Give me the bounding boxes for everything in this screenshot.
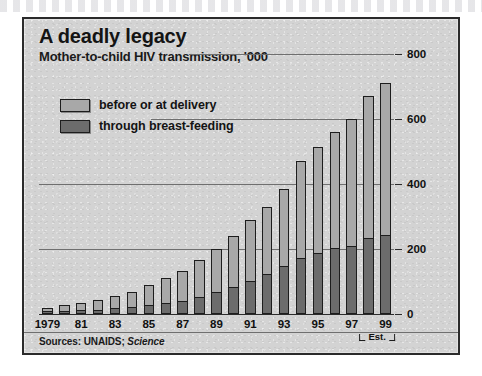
bar-segment-breast-feeding-1994 — [297, 258, 305, 313]
x-axis-label-1989: 89 — [210, 318, 223, 330]
y-tick-400 — [395, 184, 402, 185]
bar-segment-breast-feeding-1998 — [364, 238, 372, 313]
x-axis-label-1981: 81 — [75, 318, 88, 330]
bar-1993 — [279, 189, 289, 314]
y-tick-200 — [395, 249, 402, 250]
sources-divider — [24, 332, 458, 333]
y-axis-label-0: 0 — [407, 308, 413, 320]
x-axis-label-1997: 97 — [345, 318, 358, 330]
bar-segment-breast-feeding-1991 — [246, 281, 254, 314]
bar-1981 — [76, 303, 86, 314]
bar-1995 — [313, 147, 323, 314]
bar-segment-breast-feeding-1996 — [331, 248, 339, 313]
x-axis-label-1979: 1979 — [35, 318, 61, 330]
y-axis-label-200: 200 — [407, 243, 426, 255]
bar-1983 — [110, 296, 120, 314]
bar-segment-breast-feeding-1983 — [111, 308, 119, 313]
bar-1980 — [59, 305, 69, 314]
x-axis-label-1999: 99 — [379, 318, 392, 330]
x-axis-label-1991: 91 — [244, 318, 257, 330]
bar-1987 — [177, 271, 187, 314]
bar-segment-breast-feeding-1984 — [128, 307, 136, 313]
y-axis-label-600: 600 — [407, 113, 426, 125]
bar-segment-breast-feeding-1985 — [145, 305, 153, 313]
bar-1999 — [380, 83, 390, 314]
x-axis-label-1987: 87 — [176, 318, 189, 330]
bar-1988 — [194, 260, 204, 314]
bar-segment-breast-feeding-1982 — [94, 310, 102, 313]
x-axis-label-1993: 93 — [278, 318, 291, 330]
bars-group — [39, 54, 394, 314]
bar-1989 — [211, 249, 221, 314]
sources-publication: Science — [127, 336, 164, 347]
sources-note: Sources: UNAIDS; Science — [39, 336, 164, 347]
bar-segment-breast-feeding-1988 — [195, 297, 203, 313]
bar-1996 — [330, 132, 340, 314]
bar-segment-breast-feeding-1979 — [43, 311, 51, 313]
bar-1986 — [161, 278, 171, 314]
bar-1991 — [245, 220, 255, 314]
bar-segment-breast-feeding-1987 — [178, 301, 186, 313]
bar-segment-breast-feeding-1992 — [263, 274, 271, 313]
chart-panel: A deadly legacy Mother-to-child HIV tran… — [22, 17, 460, 355]
bar-segment-breast-feeding-1990 — [229, 287, 237, 313]
x-axis-label-1983: 83 — [109, 318, 122, 330]
y-axis-label-400: 400 — [407, 178, 426, 190]
bar-segment-breast-feeding-1997 — [347, 246, 355, 313]
bar-segment-breast-feeding-1986 — [162, 303, 170, 313]
y-tick-800 — [395, 54, 402, 55]
x-axis-label-1985: 85 — [142, 318, 155, 330]
y-axis-label-800: 800 — [407, 48, 426, 60]
bar-1985 — [144, 285, 154, 314]
bar-1992 — [262, 207, 272, 314]
bar-segment-breast-feeding-1981 — [77, 310, 85, 313]
bar-1998 — [363, 96, 373, 314]
bar-segment-breast-feeding-1980 — [60, 311, 68, 313]
scan-noise-band — [0, 0, 482, 12]
bar-segment-breast-feeding-1995 — [314, 253, 322, 313]
bar-1994 — [296, 161, 306, 314]
bar-1997 — [346, 119, 356, 314]
x-axis-label-1995: 95 — [312, 318, 325, 330]
bar-1982 — [93, 300, 103, 314]
bar-segment-breast-feeding-1993 — [280, 266, 288, 313]
y-tick-0 — [395, 314, 402, 315]
sources-prefix: Sources: UNAIDS; — [39, 336, 127, 347]
bar-1984 — [127, 292, 137, 314]
y-tick-600 — [395, 119, 402, 120]
plot-area: 0200400600800 197981838587899193959799Es… — [39, 39, 394, 314]
bar-segment-breast-feeding-1999 — [381, 235, 389, 313]
bar-1979 — [42, 308, 52, 315]
gridline-0 — [39, 314, 394, 315]
bar-1990 — [228, 236, 238, 314]
bar-segment-breast-feeding-1989 — [212, 292, 220, 313]
